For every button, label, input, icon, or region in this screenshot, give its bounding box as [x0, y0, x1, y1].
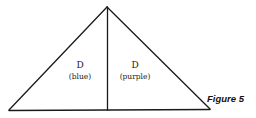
region-right-color: (purple) — [112, 73, 158, 81]
region-left-letter: D — [72, 61, 88, 70]
triangle-right-edge — [107, 7, 210, 109]
triangle-base — [9, 110, 210, 111]
triangle-figure: D (blue) D (purple) Figure 5 — [0, 0, 256, 118]
region-right-letter: D — [127, 61, 143, 70]
region-left-color: (blue) — [62, 73, 98, 81]
figure-caption: Figure 5 — [207, 93, 244, 104]
triangle-left-edge — [9, 7, 107, 110]
